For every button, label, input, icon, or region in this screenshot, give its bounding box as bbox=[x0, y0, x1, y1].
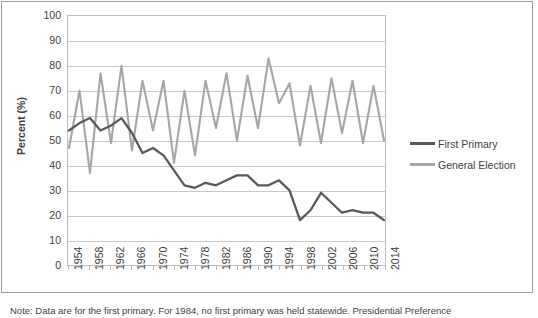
y-tick-label: 70 bbox=[31, 85, 61, 96]
x-tick-mark bbox=[301, 266, 302, 270]
x-tick-label: 1958 bbox=[94, 258, 105, 270]
plot-area bbox=[67, 15, 386, 266]
legend: First Primary General Election bbox=[410, 133, 516, 175]
figure: Percent (%) 100 90 80 70 60 50 40 30 20 … bbox=[0, 0, 538, 318]
x-tick-label: 2014 bbox=[390, 258, 401, 270]
y-tick-label: 30 bbox=[31, 185, 61, 196]
x-tick-mark bbox=[258, 266, 259, 270]
x-tick-mark bbox=[174, 266, 175, 270]
x-tick-label: 1966 bbox=[136, 258, 147, 270]
x-tick-label: 1978 bbox=[200, 258, 211, 270]
y-tick-label: 20 bbox=[31, 210, 61, 221]
x-tick-label: 1974 bbox=[179, 258, 190, 270]
legend-label-general-election: General Election bbox=[438, 159, 516, 171]
y-tick-label: 60 bbox=[31, 110, 61, 121]
legend-item-first-primary[interactable]: First Primary bbox=[410, 133, 516, 154]
chart-frame: Percent (%) 100 90 80 70 60 50 40 30 20 … bbox=[1, 1, 533, 293]
y-tick-label: 0 bbox=[31, 260, 61, 271]
x-tick-label: 2002 bbox=[327, 258, 338, 270]
x-tick-label: 1982 bbox=[221, 258, 232, 270]
y-tick-label: 90 bbox=[31, 35, 61, 46]
x-tick-mark bbox=[343, 266, 344, 270]
x-tick-label: 1990 bbox=[263, 258, 274, 270]
y-tick-label: 80 bbox=[31, 60, 61, 71]
y-axis-title: Percent (%) bbox=[15, 81, 27, 171]
x-tick-mark bbox=[322, 266, 323, 270]
series-lines bbox=[68, 16, 385, 265]
x-tick-mark bbox=[279, 266, 280, 270]
legend-swatch-first-primary bbox=[410, 142, 435, 145]
x-tick-label: 1994 bbox=[284, 258, 295, 270]
line-first-primary bbox=[69, 118, 384, 220]
y-tick-label: 50 bbox=[31, 135, 61, 146]
x-tick-label: 2010 bbox=[369, 258, 380, 270]
legend-swatch-general-election bbox=[410, 163, 435, 166]
x-tick-mark bbox=[110, 266, 111, 270]
legend-item-general-election[interactable]: General Election bbox=[410, 154, 516, 175]
x-tick-label: 1970 bbox=[158, 258, 169, 270]
y-tick-label: 40 bbox=[31, 160, 61, 171]
x-tick-mark bbox=[131, 266, 132, 270]
x-tick-label: 1954 bbox=[73, 258, 84, 270]
y-tick-label: 100 bbox=[31, 10, 61, 21]
x-tick-mark bbox=[153, 266, 154, 270]
line-general-election bbox=[69, 58, 384, 173]
y-tick-label: 10 bbox=[31, 235, 61, 246]
x-tick-mark bbox=[216, 266, 217, 270]
figure-note: Note: Data are for the first primary. Fo… bbox=[10, 305, 451, 316]
x-tick-mark bbox=[195, 266, 196, 270]
legend-label-first-primary: First Primary bbox=[438, 138, 498, 150]
x-tick-mark bbox=[237, 266, 238, 270]
x-tick-label: 1998 bbox=[306, 258, 317, 270]
x-tick-mark bbox=[68, 266, 69, 270]
x-tick-label: 1962 bbox=[115, 258, 126, 270]
x-tick-label: 2006 bbox=[348, 258, 359, 270]
x-tick-mark bbox=[89, 266, 90, 270]
x-tick-mark bbox=[385, 266, 386, 270]
x-tick-mark bbox=[364, 266, 365, 270]
x-tick-label: 1986 bbox=[242, 258, 253, 270]
